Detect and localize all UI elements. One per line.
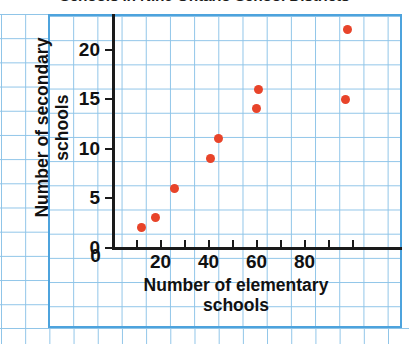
x-axis-tick — [232, 240, 234, 249]
data-point — [170, 184, 179, 193]
x-axis-tick — [208, 240, 210, 249]
x-axis-tick — [160, 240, 162, 249]
y-axis-title: Number of secondary schools — [33, 18, 72, 238]
x-axis-tick — [352, 240, 354, 249]
x-axis-title-line1: Number of elementary — [144, 275, 329, 295]
x-axis-title-line2: schools — [86, 296, 386, 316]
data-point — [341, 95, 350, 104]
data-point — [343, 25, 352, 34]
x-axis-title: Number of elementary schools — [86, 276, 386, 315]
y-axis-tick — [105, 98, 114, 100]
x-axis-tick — [256, 240, 258, 249]
x-axis-tick-label: 40 — [187, 252, 231, 271]
y-axis-title-line2: schools — [52, 95, 72, 161]
x-axis-tick-label-origin: 0 — [74, 246, 118, 265]
data-point — [206, 154, 215, 163]
x-axis-tick — [328, 240, 330, 249]
x-axis-tick-label: 60 — [235, 252, 279, 271]
data-point — [137, 223, 146, 232]
x-axis-tick — [184, 240, 186, 249]
x-axis-tick — [304, 240, 306, 249]
x-axis-tick-label: 20 — [139, 252, 183, 271]
x-axis-tick — [136, 240, 138, 249]
data-point — [254, 85, 263, 94]
data-point — [151, 213, 160, 222]
data-point — [214, 134, 223, 143]
x-axis-tick — [280, 240, 282, 249]
y-axis-title-line1: Number of secondary — [32, 38, 52, 218]
data-point — [252, 104, 261, 113]
y-axis-tick — [105, 49, 114, 51]
y-axis-tick — [105, 148, 114, 150]
y-axis-tick — [105, 197, 114, 199]
scatter-plot-figure: Schools in Nine Ontario School Districts… — [0, 0, 409, 344]
x-axis-tick-label: 80 — [283, 252, 327, 271]
